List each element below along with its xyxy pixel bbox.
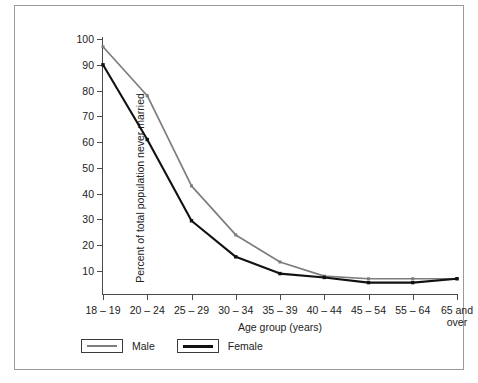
y-tick-label: 70 [82, 111, 94, 122]
y-tick-label: 90 [82, 60, 94, 71]
x-tick-mark [280, 294, 281, 300]
legend-item-female[interactable]: Female [177, 339, 263, 353]
legend-line-female [183, 345, 213, 348]
data-point [101, 63, 104, 66]
y-tick-label: 40 [82, 188, 94, 199]
legend-line-male [87, 345, 117, 347]
series-line-male [103, 47, 457, 279]
x-tick-mark [236, 294, 237, 300]
data-point [323, 276, 326, 279]
data-point [411, 277, 414, 280]
x-tick-mark [103, 294, 104, 300]
y-tick-label: 50 [82, 163, 94, 174]
x-tick-label: 35 – 39 [262, 304, 297, 316]
data-point [102, 45, 105, 48]
x-tick-label: 25 – 29 [174, 304, 209, 316]
legend-label-female: Female [228, 340, 263, 352]
x-axis-label: Age group (years) [103, 321, 457, 333]
legend-swatch-female [177, 339, 219, 353]
data-point [367, 281, 370, 284]
x-tick-label: 18 – 19 [85, 304, 120, 316]
y-tick-label: 100 [76, 34, 94, 45]
data-point [190, 184, 193, 187]
x-tick-label: 55 – 64 [395, 304, 430, 316]
series-layer [103, 39, 457, 294]
y-tick-label: 10 [82, 266, 94, 277]
legend-label-male: Male [132, 340, 155, 352]
x-tick-mark [147, 294, 148, 300]
legend-swatch-male [81, 339, 123, 353]
x-tick-mark [457, 294, 458, 300]
data-point [367, 277, 370, 280]
data-point [234, 233, 237, 236]
x-tick-label: 65 and over [434, 304, 478, 328]
data-point [234, 255, 237, 258]
x-tick-mark [413, 294, 414, 300]
data-point [279, 260, 282, 263]
y-tick-label: 30 [82, 214, 94, 225]
figure: Percent of total population never marrie… [0, 0, 478, 383]
legend-item-male[interactable]: Male [81, 339, 155, 353]
y-tick-label: 20 [82, 240, 94, 251]
x-tick-mark [369, 294, 370, 300]
x-tick-mark [324, 294, 325, 300]
chart-frame: Percent of total population never marrie… [14, 5, 464, 370]
legend: Male Female [81, 339, 263, 353]
x-tick-mark [192, 294, 193, 300]
data-point [146, 138, 149, 141]
data-point [455, 277, 458, 280]
y-tick-label: 80 [82, 85, 94, 96]
x-tick-label: 30 – 34 [218, 304, 253, 316]
data-point [278, 272, 281, 275]
series-line-female [103, 65, 457, 283]
x-tick-label: 45 – 54 [351, 304, 386, 316]
data-point [411, 281, 414, 284]
x-tick-label: 40 – 44 [307, 304, 342, 316]
plot-area: 102030405060708090100 18 – 1920 – 2425 –… [103, 39, 457, 294]
data-point [146, 94, 149, 97]
y-tick-label: 60 [82, 137, 94, 148]
data-point [190, 219, 193, 222]
x-tick-label: 20 – 24 [130, 304, 165, 316]
